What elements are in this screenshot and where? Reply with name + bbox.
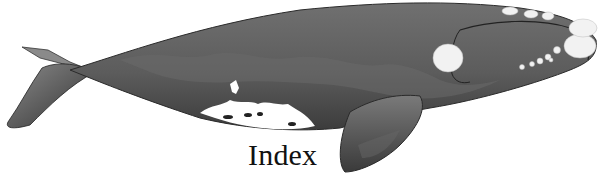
index-caption: Index (248, 138, 317, 172)
index-banner-link[interactable]: Index (0, 0, 600, 175)
tail-fluke (7, 47, 95, 128)
